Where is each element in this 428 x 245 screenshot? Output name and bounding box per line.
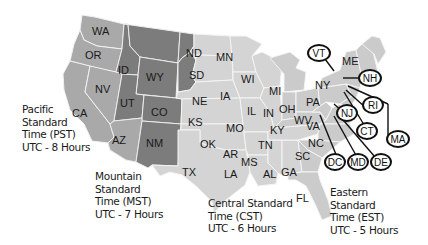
label-ks: KS	[188, 116, 203, 128]
label-wi: WI	[241, 73, 254, 85]
label-wy: WY	[146, 71, 164, 83]
label-ok: OK	[200, 138, 217, 150]
label-co: CO	[151, 106, 168, 118]
pacific-line3: Time (PST)	[22, 128, 90, 141]
label-fl: FL	[296, 192, 309, 204]
label-ny: NY	[315, 79, 331, 91]
zone-label-eastern: Eastern Standard Time (EST) UTC - 5 Hour…	[330, 186, 398, 236]
label-pa: PA	[306, 96, 321, 108]
label-ne: NE	[192, 95, 207, 107]
label-az: AZ	[112, 134, 126, 146]
eastern-line3: Time (EST)	[330, 211, 398, 224]
label-ut: UT	[120, 97, 135, 109]
callout-md: MD	[347, 153, 369, 171]
label-mo: MO	[226, 122, 244, 134]
label-mn: MN	[216, 51, 233, 63]
label-nc: NC	[308, 137, 324, 149]
callout-ma: MA	[386, 130, 410, 148]
eastern-line4: UTC - 5 Hours	[330, 224, 398, 237]
mountain-line3: Time (MST)	[95, 195, 163, 208]
label-ia: IA	[220, 90, 231, 102]
eastern-line1: Eastern	[330, 186, 398, 199]
label-nd: ND	[186, 47, 202, 59]
mountain-line2: Standard	[95, 183, 163, 196]
callout-ri: RI	[362, 96, 384, 114]
label-me: ME	[342, 55, 359, 67]
state-fl	[288, 172, 332, 220]
callout-ct: CT	[356, 122, 378, 140]
callout-de: DE	[370, 153, 392, 171]
pacific-line1: Pacific	[22, 103, 90, 116]
label-nm: NM	[146, 137, 163, 149]
label-or: OR	[85, 49, 102, 61]
label-nv: NV	[95, 83, 111, 95]
callout-dc: DC	[324, 153, 346, 171]
label-tx: TX	[182, 166, 197, 178]
zone-label-pacific: Pacific Standard Time (PST) UTC - 8 Hour…	[22, 103, 90, 153]
label-ms: MS	[241, 156, 258, 168]
label-va: VA	[306, 120, 321, 132]
label-sc: SC	[295, 150, 310, 162]
label-mi: MI	[269, 85, 281, 97]
label-ga: GA	[281, 166, 298, 178]
central-line3: UTC - 6 Hours	[208, 222, 293, 235]
callout-vt: VT	[307, 44, 331, 62]
eastern-line2: Standard	[330, 199, 398, 212]
label-wa: WA	[92, 25, 110, 37]
label-tn: TN	[258, 139, 273, 151]
label-sd: SD	[189, 69, 204, 81]
label-ar: AR	[223, 148, 238, 160]
callout-nj: NJ	[336, 104, 358, 122]
label-in: IN	[263, 107, 274, 119]
central-line1: Central Standard	[208, 197, 293, 210]
label-il: IL	[247, 105, 256, 117]
callout-nh: NH	[358, 69, 382, 87]
label-la: LA	[224, 168, 238, 180]
mountain-line4: UTC - 7 Hours	[95, 208, 163, 221]
zone-label-mountain: Mountain Standard Time (MST) UTC - 7 Hou…	[95, 170, 163, 220]
central-line2: Time (CST)	[208, 210, 293, 223]
pacific-line2: Standard	[22, 116, 90, 129]
label-ky: KY	[270, 124, 285, 136]
zone-label-central: Central Standard Time (CST) UTC - 6 Hour…	[208, 197, 293, 235]
pacific-line4: UTC - 8 Hours	[22, 141, 90, 154]
label-id: ID	[118, 64, 129, 76]
mountain-line1: Mountain	[95, 170, 163, 183]
label-al: AL	[263, 168, 276, 180]
